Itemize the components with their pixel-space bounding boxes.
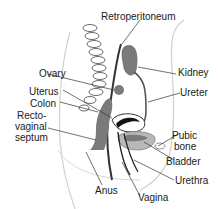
label-rectovaginal-1: Recto- bbox=[17, 111, 46, 121]
label-kidney: Kidney bbox=[178, 68, 209, 78]
label-uterus: Uterus bbox=[29, 87, 58, 97]
body-outline-back bbox=[59, 32, 75, 209]
label-urethra: Urethra bbox=[175, 176, 208, 186]
label-pubic-1: Pubic bbox=[172, 131, 197, 141]
leg-outline bbox=[58, 150, 140, 180]
label-retroperitoneum: Retroperitoneum bbox=[101, 12, 175, 22]
label-ovary: Ovary bbox=[39, 69, 66, 79]
label-bladder: Bladder bbox=[166, 157, 200, 167]
label-rectovaginal-2: vaginal bbox=[15, 122, 47, 132]
label-vagina: Vagina bbox=[138, 193, 168, 203]
label-colon: Colon bbox=[30, 99, 56, 109]
colon-shape bbox=[90, 98, 112, 150]
ovary-shape bbox=[114, 85, 124, 95]
label-rectovaginal-3: septum bbox=[15, 133, 48, 143]
label-pubic-2: bone bbox=[174, 142, 196, 152]
spine-icon bbox=[79, 25, 107, 112]
kidney-shape bbox=[122, 45, 137, 75]
label-ureter: Ureter bbox=[180, 88, 208, 98]
label-anus: Anus bbox=[95, 186, 118, 196]
uterus-shape bbox=[112, 114, 145, 132]
